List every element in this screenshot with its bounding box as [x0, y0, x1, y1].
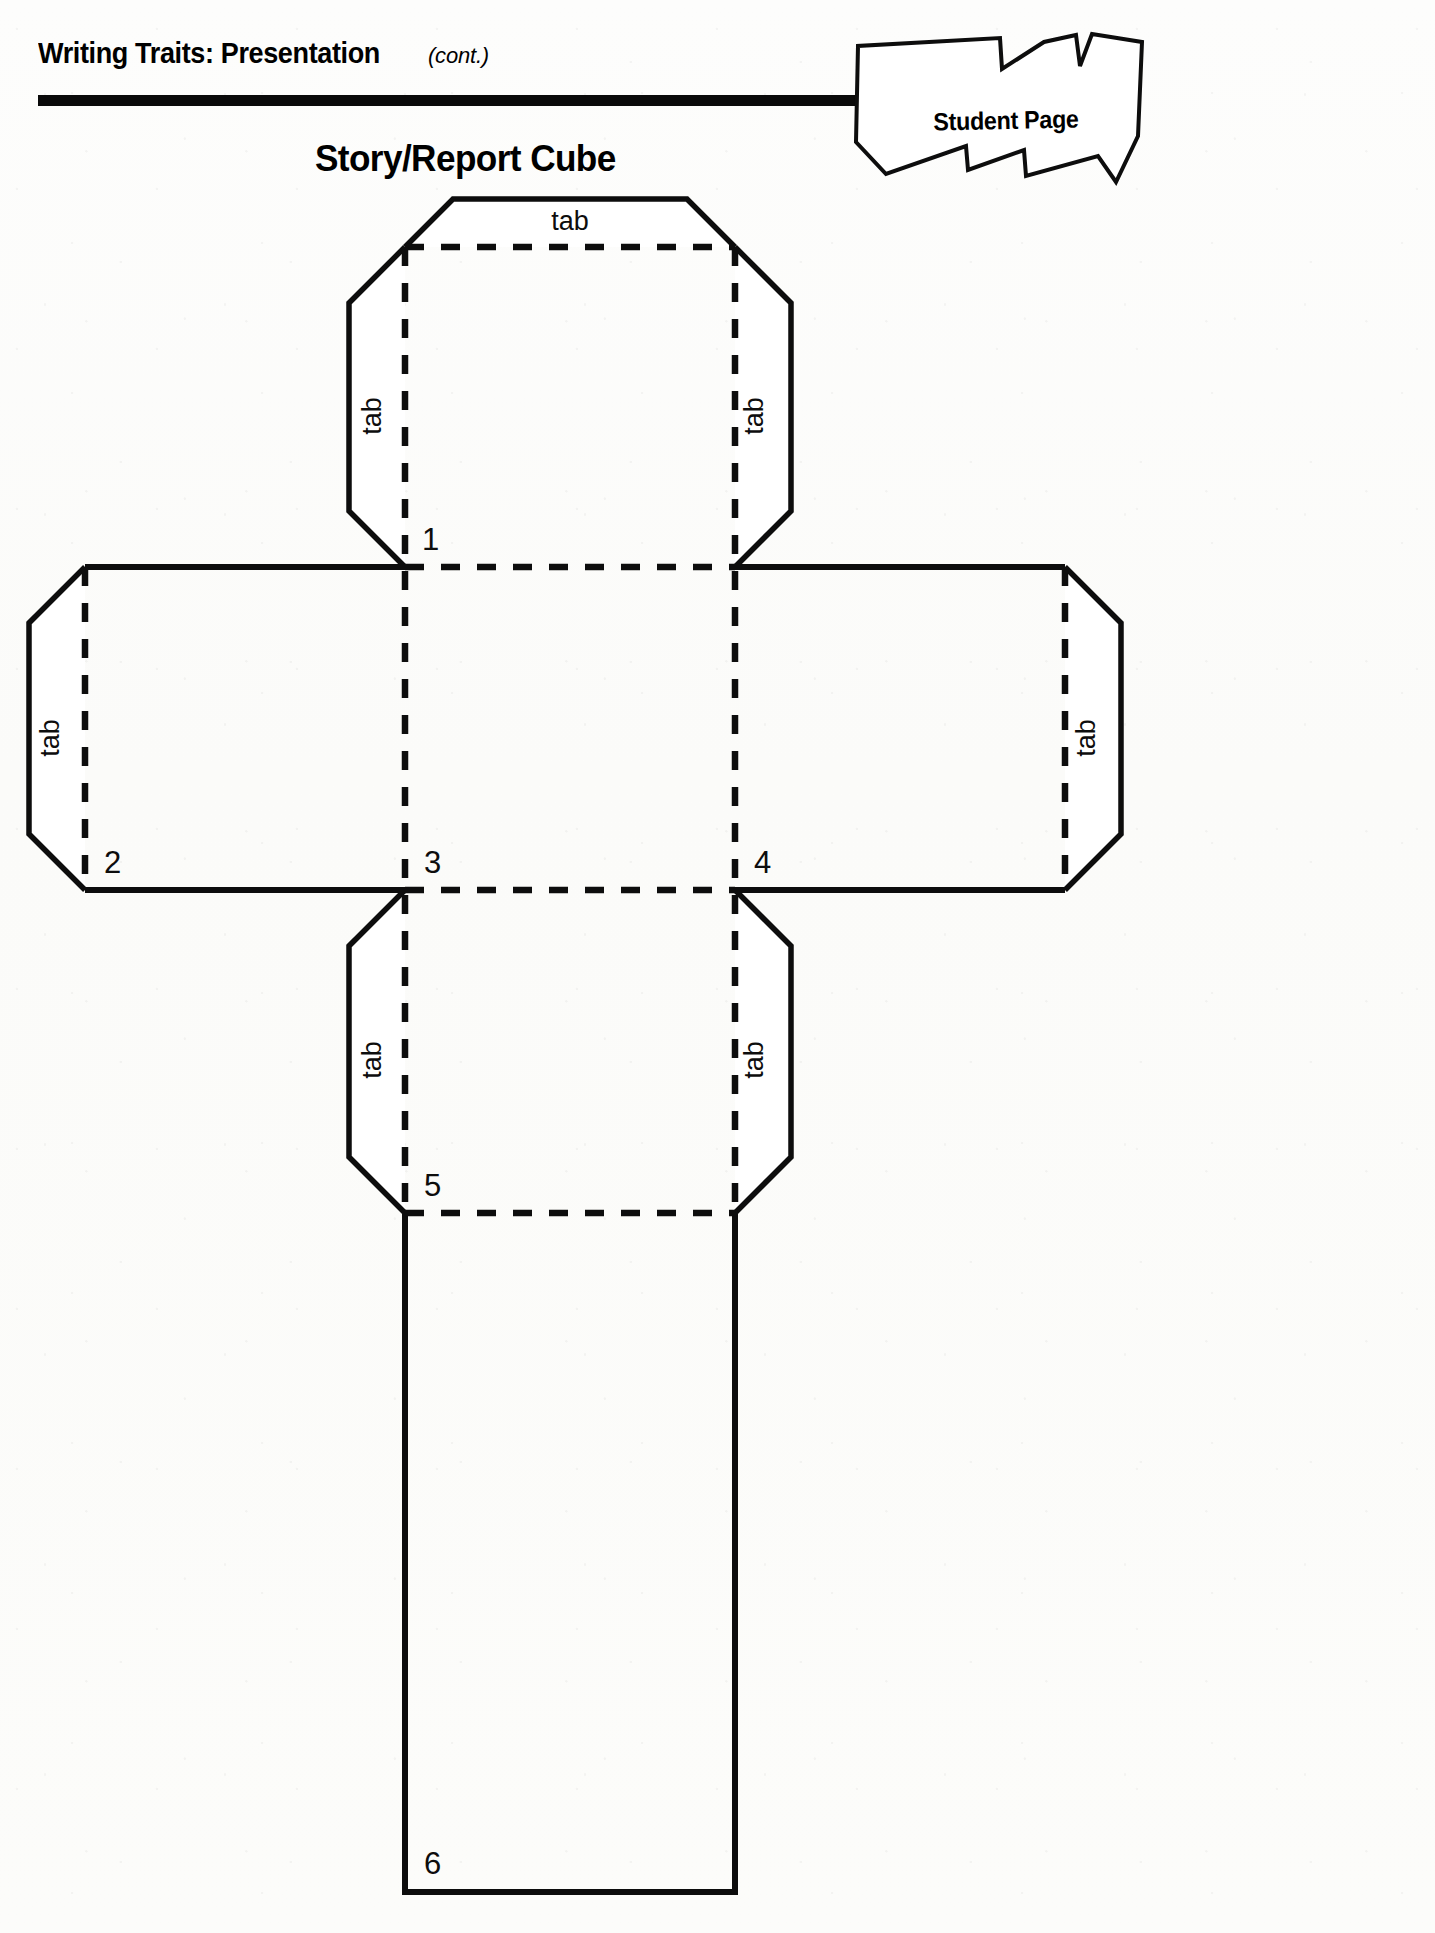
tab-face1-right-label: tab — [739, 397, 769, 435]
face-number-labels: 1 2 3 4 5 6 — [104, 522, 771, 1881]
face-label-6: 6 — [424, 1846, 441, 1881]
worksheet-title-text: Story/Report Cube — [315, 138, 616, 180]
face-label-1: 1 — [422, 522, 439, 557]
tab-face4-right-label: tab — [1071, 719, 1101, 757]
header-title: Writing Traits: Presentation — [38, 36, 380, 70]
tab-face5-right-label: tab — [739, 1041, 769, 1079]
net-cut-outline — [85, 567, 1065, 1892]
tab-top-label: tab — [551, 206, 589, 236]
tab-face2-left-label: tab — [35, 719, 65, 757]
face-label-3: 3 — [424, 845, 441, 880]
tab-face1-right: tab — [735, 247, 791, 567]
cube-net-svg: tab tab tab tab tab tab tab — [0, 180, 1435, 1933]
student-page-badge-label: Student Page — [913, 104, 1100, 137]
worksheet-title: Story/Report Cube — [0, 138, 930, 180]
net-fold-lines — [85, 247, 1065, 1213]
tab-face5-left: tab — [349, 890, 405, 1213]
tab-top: tab — [405, 199, 735, 247]
tab-face5-left-label: tab — [357, 1041, 387, 1079]
tab-face5-right: tab — [735, 890, 791, 1213]
face-label-5: 5 — [424, 1168, 441, 1203]
header-continued-note: (cont.) — [428, 43, 489, 68]
tab-face1-left-label: tab — [357, 397, 387, 435]
cube-net-diagram: tab tab tab tab tab tab tab — [0, 180, 1435, 1933]
tab-face2-left: tab — [29, 567, 85, 890]
tab-face4-right: tab — [1065, 567, 1121, 890]
tab-face1-left: tab — [349, 247, 405, 567]
face-label-4: 4 — [754, 845, 771, 880]
face-label-2: 2 — [104, 845, 121, 880]
